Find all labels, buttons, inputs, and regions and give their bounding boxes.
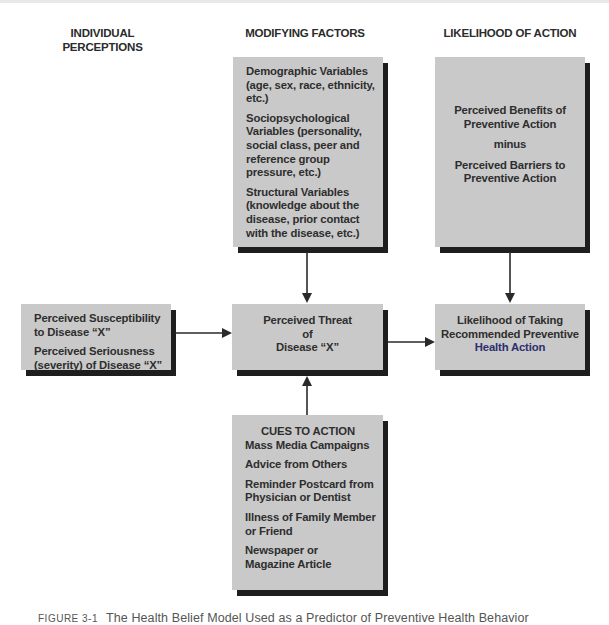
benefits-minus-barriers-box: Perceived Benefits of Preventive Action … xyxy=(435,57,585,247)
cue-item: Advice from Others xyxy=(245,458,377,472)
arrow-right-icon xyxy=(175,326,233,340)
text-line: Sociopsychological xyxy=(246,112,349,124)
text-line: Physician or Dentist xyxy=(245,491,351,503)
arrow-right-icon xyxy=(388,335,436,349)
text-line: (severity) of Disease “X” xyxy=(34,359,162,371)
perceived-seriousness: Perceived Seriousness (severity) of Dise… xyxy=(34,345,165,372)
text-line: with the disease, etc.) xyxy=(246,227,359,239)
text-line: Reminder Postcard from xyxy=(245,478,374,490)
text-line: of xyxy=(302,328,312,340)
text-line: Advice from Others xyxy=(245,458,347,470)
demographic-variables: Demographic Variables (age, sex, race, e… xyxy=(246,65,375,106)
text-line: Perceived Seriousness xyxy=(34,345,155,357)
cues-to-action-box: CUES TO ACTION Mass Media Campaigns Advi… xyxy=(232,415,383,590)
figure-label: FIGURE 3-1 xyxy=(38,613,98,624)
text-line: Perceived Susceptibility xyxy=(34,312,160,324)
figure-caption: FIGURE 3-1The Health Belief Model Used a… xyxy=(38,611,529,625)
text-line: Perceived Benefits of xyxy=(454,104,566,116)
text-line: disease, prior contact xyxy=(246,213,359,225)
perceived-threat-text: Perceived Threat of Disease “X” xyxy=(232,314,383,355)
text-line: Likelihood of Taking xyxy=(457,314,563,326)
minus-operator: minus xyxy=(435,138,585,152)
text-line: Preventive Action xyxy=(464,172,556,184)
text-line: Structural Variables xyxy=(246,186,349,198)
text-line: Variables (personality, xyxy=(246,125,362,137)
text-line: etc.) xyxy=(246,92,268,104)
text-line: Perceived Threat xyxy=(263,314,352,326)
text-line: Health Action xyxy=(475,341,545,353)
arrow-down-icon xyxy=(503,252,517,304)
text-line: Perceived Barriers to xyxy=(455,159,566,171)
text-line: social class, peer and xyxy=(246,139,360,151)
cue-item: Mass Media Campaigns xyxy=(245,439,377,453)
perceived-susceptibility: Perceived Susceptibility to Disease “X” xyxy=(34,312,165,339)
text-line: pressure, etc.) xyxy=(246,166,321,178)
arrow-down-icon xyxy=(300,252,314,304)
perceived-barriers: Perceived Barriers to Preventive Action xyxy=(435,159,585,186)
perceived-threat-box: Perceived Threat of Disease “X” xyxy=(232,304,383,370)
cue-item: Newspaper or Magazine Article xyxy=(245,544,377,571)
cue-item: Illness of Family Member or Friend xyxy=(245,511,377,538)
column-heading-modifying-factors: MODIFYING FACTORS xyxy=(205,26,405,40)
structural-variables: Structural Variables (knowledge about th… xyxy=(246,186,375,240)
text-line: to Disease “X” xyxy=(34,326,110,338)
text-line: (age, sex, race, ethnicity, xyxy=(246,79,375,91)
text-line: Demographic Variables xyxy=(246,65,368,77)
likelihood-text: Likelihood of Taking Recommended Prevent… xyxy=(435,314,585,355)
sociopsychological-variables: Sociopsychological Variables (personalit… xyxy=(246,112,375,180)
page-top-rule xyxy=(0,0,609,3)
column-heading-individual-perceptions: INDIVIDUAL PERCEPTIONS xyxy=(45,26,160,54)
column-heading-line: INDIVIDUAL xyxy=(45,26,160,40)
text-line: Disease “X” xyxy=(276,341,339,353)
column-heading-likelihood-of-action: LIKELIHOOD OF ACTION xyxy=(410,26,609,40)
likelihood-of-action-box: Likelihood of Taking Recommended Prevent… xyxy=(435,304,585,370)
perceived-benefits: Perceived Benefits of Preventive Action xyxy=(435,104,585,131)
text-line: Illness of Family Member xyxy=(245,511,376,523)
text-line: Preventive Action xyxy=(464,118,556,130)
cue-item: Reminder Postcard from Physician or Dent… xyxy=(245,478,377,505)
arrow-up-icon xyxy=(300,376,314,416)
text-line: or Friend xyxy=(245,525,293,537)
text-line: Magazine Article xyxy=(245,558,331,570)
figure-caption-text: The Health Belief Model Used as a Predic… xyxy=(106,611,529,625)
text-line: Newspaper or xyxy=(245,544,318,556)
cues-to-action-title: CUES TO ACTION xyxy=(245,425,377,439)
text-line: Recommended Preventive xyxy=(441,328,579,340)
text-line: Mass Media Campaigns xyxy=(245,439,369,451)
text-line: reference group xyxy=(246,153,330,165)
modifying-factors-box: Demographic Variables (age, sex, race, e… xyxy=(233,57,383,247)
individual-perceptions-box: Perceived Susceptibility to Disease “X” … xyxy=(21,304,171,370)
column-heading-line: PERCEPTIONS xyxy=(45,40,160,54)
text-line: (knowledge about the xyxy=(246,199,359,211)
